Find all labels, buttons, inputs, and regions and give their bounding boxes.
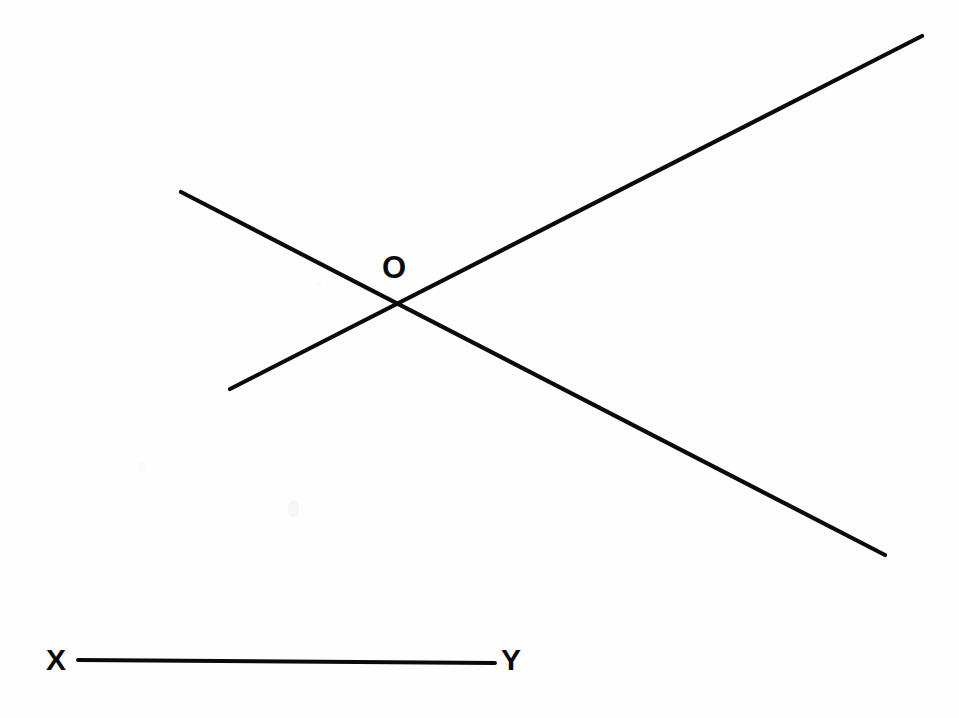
segment-end-label: Y (501, 645, 521, 675)
segment-xy-line (78, 660, 495, 663)
segment-start-label: X (46, 645, 66, 675)
ascending-line (230, 36, 922, 389)
descending-line (181, 192, 885, 555)
diagram-canvas (0, 0, 959, 718)
intersection-point-label: O (382, 252, 406, 283)
geometry-figure: O X Y (0, 0, 959, 718)
